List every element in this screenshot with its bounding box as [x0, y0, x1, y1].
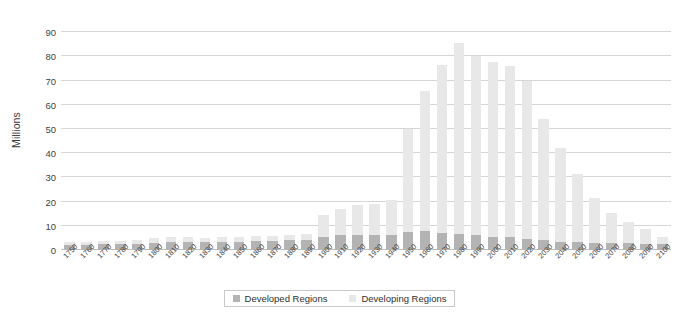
y-axis-title: Millions: [6, 0, 26, 260]
bar-group: [230, 20, 247, 250]
x-axis-tick-label-cell: 1860: [247, 252, 264, 288]
legend-box: Developed RegionsDeveloping Regions: [224, 290, 456, 307]
x-axis-tick-label-cell: 1970: [434, 252, 451, 288]
bar-group: [383, 20, 400, 250]
y-axis-tick-label: 10: [45, 220, 56, 231]
y-axis-tick-label: 50: [45, 123, 56, 134]
bar-stack: [420, 91, 431, 250]
bar-group: [603, 20, 620, 250]
bar-group: [400, 20, 417, 250]
bar-segment-developing-regions: [403, 129, 414, 232]
y-axis-title-label: Millions: [10, 112, 22, 148]
bar-group: [417, 20, 434, 250]
y-axis-tick-label: 20: [45, 196, 56, 207]
bar-group: [451, 20, 468, 250]
bar-group: [349, 20, 366, 250]
x-axis-tick-label-cell: 1780: [112, 252, 129, 288]
y-axis-tick-label: 60: [45, 99, 56, 110]
y-axis-tick-label: 40: [45, 148, 56, 159]
bar-group: [484, 20, 501, 250]
bar-group: [112, 20, 129, 250]
bar-stack: [488, 62, 499, 250]
bar-segment-developing-regions: [335, 209, 346, 236]
bar-group: [298, 20, 315, 250]
bar-group: [654, 20, 671, 250]
x-axis-tick-label-cell: 1790: [129, 252, 146, 288]
x-axis-tick-label-cell: 1980: [451, 252, 468, 288]
bar-group: [501, 20, 518, 250]
bar-group: [95, 20, 112, 250]
bar-stack: [403, 129, 414, 250]
legend-item-label: Developed Regions: [245, 293, 328, 304]
bar-group: [586, 20, 603, 250]
bar-group: [163, 20, 180, 250]
x-axis-tick-labels: 1750176017701780179018001810182018301840…: [61, 252, 671, 288]
x-axis-tick-label-cell: 2060: [586, 252, 603, 288]
x-axis-tick-label-cell: 2020: [518, 252, 535, 288]
bar-segment-developing-regions: [572, 174, 583, 242]
x-axis-tick-label-cell: 1910: [332, 252, 349, 288]
bar-series: [61, 20, 671, 250]
bar-stack: [505, 66, 516, 250]
bar-group: [197, 20, 214, 250]
bar-segment-developing-regions: [505, 66, 516, 237]
x-axis-tick-label-cell: 1810: [163, 252, 180, 288]
bar-stack: [454, 43, 465, 250]
x-axis-tick-label-cell: 1830: [197, 252, 214, 288]
bar-segment-developing-regions: [437, 65, 448, 233]
bar-group: [213, 20, 230, 250]
y-axis-tick-label: 30: [45, 172, 56, 183]
y-axis-tick-label: 80: [45, 51, 56, 62]
x-axis-tick-label-cell: 1990: [468, 252, 485, 288]
x-axis-tick-label-cell: 1800: [146, 252, 163, 288]
bar-group: [332, 20, 349, 250]
x-axis-tick-label-cell: 1760: [78, 252, 95, 288]
legend-item[interactable]: Developing Regions: [349, 293, 446, 304]
legend: Developed RegionsDeveloping Regions: [0, 290, 679, 307]
legend-item[interactable]: Developed Regions: [233, 293, 328, 304]
plot-area: [61, 20, 671, 250]
bar-segment-developing-regions: [352, 205, 363, 235]
bar-segment-developing-regions: [471, 56, 482, 235]
x-axis-tick-label-cell: 1890: [298, 252, 315, 288]
bar-stack: [471, 56, 482, 250]
bar-stack: [437, 65, 448, 250]
bar-stack: [555, 148, 566, 250]
bar-segment-developing-regions: [488, 62, 499, 236]
legend-swatch-icon: [349, 295, 356, 302]
x-axis-tick-label-cell: 2010: [501, 252, 518, 288]
bar-group: [180, 20, 197, 250]
bar-segment-developing-regions: [555, 148, 566, 241]
x-axis-tick-label-cell: 1950: [400, 252, 417, 288]
bar-segment-developing-regions: [623, 222, 634, 244]
bar-group: [61, 20, 78, 250]
bar-group: [552, 20, 569, 250]
bar-group: [315, 20, 332, 250]
bar-segment-developing-regions: [606, 213, 617, 243]
x-axis-tick-label-cell: 1900: [315, 252, 332, 288]
bar-group: [129, 20, 146, 250]
bar-stack: [522, 81, 533, 250]
bar-segment-developing-regions: [318, 215, 329, 237]
x-axis-tick-label-cell: 1840: [213, 252, 230, 288]
x-axis-tick-label-cell: 1820: [180, 252, 197, 288]
legend-swatch-icon: [233, 295, 240, 302]
bar-group: [518, 20, 535, 250]
legend-item-label: Developing Regions: [361, 293, 446, 304]
y-axis-tick-label: 90: [45, 27, 56, 38]
x-axis-tick-label-cell: 1850: [230, 252, 247, 288]
bar-group: [281, 20, 298, 250]
bar-group: [146, 20, 163, 250]
x-axis-tick-label-cell: 1940: [383, 252, 400, 288]
bar-stack: [572, 174, 583, 250]
bar-group: [264, 20, 281, 250]
bar-group: [535, 20, 552, 250]
x-axis-tick-label-cell: 2000: [484, 252, 501, 288]
x-axis-tick-label-cell: 1750: [61, 252, 78, 288]
bar-group: [366, 20, 383, 250]
bar-stack: [538, 119, 549, 250]
x-axis-tick-label-cell: 2100: [654, 252, 671, 288]
bar-segment-developing-regions: [589, 198, 600, 243]
x-axis-tick-label-cell: 2090: [637, 252, 654, 288]
y-axis-tick-label: 70: [45, 75, 56, 86]
